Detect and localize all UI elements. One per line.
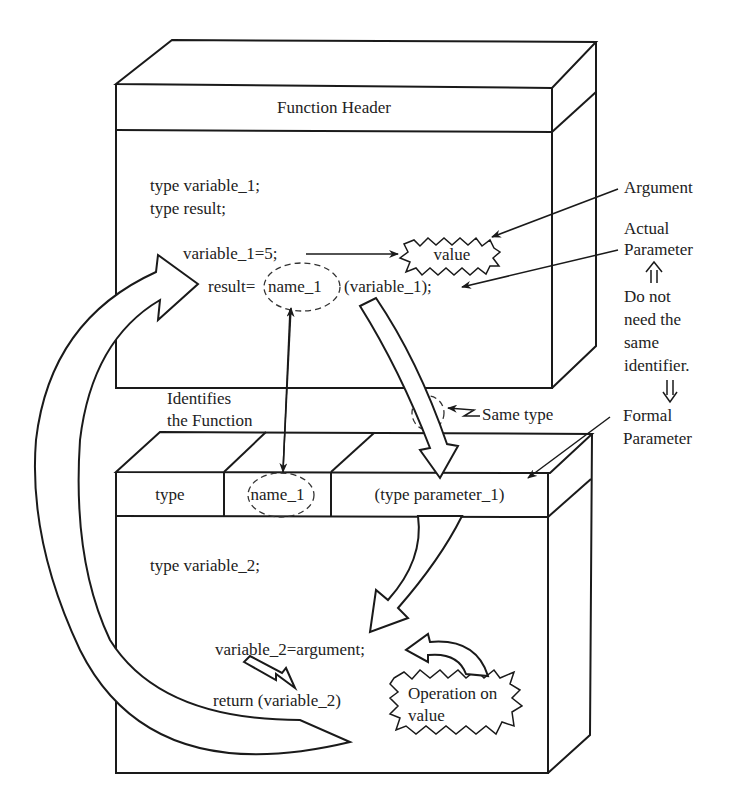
note-line-2: need the	[624, 310, 681, 330]
operation-burst-line1: Operation on	[408, 684, 497, 704]
formal-parameter-label-2: Parameter	[623, 429, 692, 449]
assign-to-return-arrow	[244, 656, 295, 688]
up-double-arrow-icon	[646, 262, 662, 283]
operation-feedback-arrow	[406, 634, 488, 676]
header-cell-type: type	[116, 485, 224, 505]
header-cell-parameter: (type parameter_1)	[331, 485, 548, 505]
decl-variable-1: type variable_1;	[150, 176, 260, 196]
parameter-to-body-arrow	[370, 516, 462, 632]
call-arguments: (variable_1);	[344, 277, 432, 297]
identifies-label-1: Identifies	[167, 389, 231, 409]
function-header-label: Function Header	[116, 98, 552, 118]
actual-parameter-label-1: Actual	[624, 219, 669, 239]
call-function-name: name_1	[268, 277, 322, 297]
return-statement: return (variable_2)	[213, 691, 341, 711]
diagram-graphics	[0, 0, 749, 801]
assign-variable-2: variable_2=argument;	[215, 640, 365, 660]
identifies-label-2: the Function	[167, 411, 252, 431]
function-call-diagram: Function Header type variable_1; type re…	[0, 0, 749, 801]
actual-parameter-label-2: Parameter	[624, 240, 693, 260]
note-line-1: Do not	[624, 287, 671, 307]
value-burst-label: value	[412, 245, 492, 265]
decl-result: type result;	[150, 199, 226, 219]
decl-variable-2: type variable_2;	[150, 556, 260, 576]
note-line-3: same	[624, 333, 659, 353]
call-prefix: result=	[208, 277, 255, 297]
note-line-4: identifier.	[624, 356, 690, 376]
formal-parameter-pointer-arrow	[528, 417, 610, 478]
down-double-arrow-icon	[663, 380, 677, 402]
same-type-zigzag-arrow	[448, 408, 480, 416]
argument-pointer-arrow	[492, 189, 618, 237]
argument-label: Argument	[624, 178, 693, 198]
assign-variable-1: variable_1=5;	[183, 244, 278, 264]
same-type-label: Same type	[482, 405, 553, 425]
header-cell-name: name_1	[224, 485, 331, 505]
formal-parameter-label-1: Formal	[623, 406, 672, 426]
operation-burst-line2: value	[408, 706, 445, 726]
